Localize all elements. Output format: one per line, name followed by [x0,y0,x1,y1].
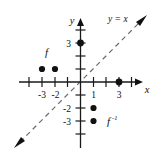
x-tick-label--2: -2 [52,90,60,100]
x-tick-label-1: 1 [91,90,96,100]
function-f-inverse-label: f -1 [107,114,117,127]
x-axis-label: x [144,84,150,95]
data-point [116,79,123,86]
function-f-inverse-exponent: -1 [112,114,117,121]
x-tick-label-3: 3 [117,90,122,100]
y-tick-label--3: -3 [63,117,71,127]
data-point [90,105,96,111]
x-axis-arrow [135,79,143,86]
x-tick-label--3: -3 [38,90,46,100]
data-point [90,118,96,124]
y-tick-label-3: 3 [66,39,71,49]
data-point [52,66,58,72]
inverse-function-graph-figure: -3 -2 1 3 3 -2 -3 x y y = x f f -1 [0,0,162,159]
y-axis-arrow [77,18,84,26]
y-axis-label: y [69,15,75,26]
identity-line-label: y = x [107,14,128,24]
y-tick-label--2: -2 [63,104,71,114]
data-point [39,66,45,72]
data-point [77,40,84,47]
function-f-label: f [45,46,50,58]
y-axis-group [76,18,86,148]
